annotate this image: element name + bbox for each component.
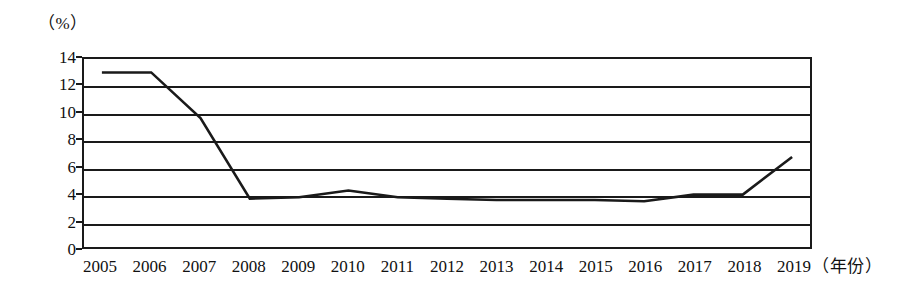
x-axis-unit-label: （年份） <box>812 257 882 277</box>
x-axis-tick-label: 2015 <box>579 257 613 277</box>
x-axis-tick-label: 2006 <box>133 257 167 277</box>
x-axis-tick-label: 2013 <box>480 257 514 277</box>
x-axis-tick-label: 2012 <box>430 257 464 277</box>
x-axis-tick-label: 2010 <box>331 257 365 277</box>
x-axis-tick-label: 2008 <box>232 257 266 277</box>
x-axis-tick-label: 2019 <box>777 257 811 277</box>
y-axis-tick-label-group: 02468101214 <box>38 57 76 249</box>
x-axis-tick-label: 2014 <box>529 257 563 277</box>
x-axis-tick-label-group: 2005200620072008200920102011201220132014… <box>82 257 812 285</box>
x-axis-tick-label: 2017 <box>678 257 712 277</box>
y-axis-tick-label: 8 <box>68 131 77 148</box>
y-axis-tick-label: 14 <box>59 49 76 66</box>
data-series-layer <box>84 59 810 247</box>
x-axis-tick-label: 2011 <box>381 257 414 277</box>
y-axis-tick-label: 4 <box>68 186 77 203</box>
plot-area <box>82 57 812 249</box>
series-line <box>102 72 792 201</box>
y-axis-tick-label: 10 <box>59 103 76 120</box>
line-chart-figure: （%） 02468101214 200520062007200820092010… <box>0 0 920 292</box>
y-axis-tick-label: 2 <box>68 213 77 230</box>
y-axis-tick-label: 6 <box>68 158 77 175</box>
x-axis-tick-label: 2009 <box>281 257 315 277</box>
y-axis-tick-label: 12 <box>59 76 76 93</box>
x-axis-tick-label: 2007 <box>182 257 216 277</box>
x-axis-tick-label: 2018 <box>727 257 761 277</box>
x-axis-tick-label: 2005 <box>83 257 117 277</box>
x-axis-tick-label: 2016 <box>628 257 662 277</box>
y-axis-unit-label: （%） <box>38 9 88 34</box>
y-axis-tick-label: 0 <box>68 241 77 258</box>
